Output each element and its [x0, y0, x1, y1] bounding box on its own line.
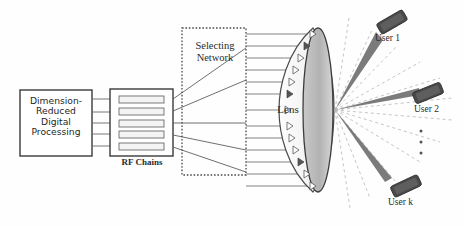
user-2-label: User 2: [414, 104, 439, 115]
user-1-label: User 1: [375, 33, 400, 44]
beam-user-1: [335, 32, 383, 110]
dsp-block-label: Dimension- Reduced Digital Processing: [22, 96, 90, 137]
lens-label: Lens: [268, 103, 308, 115]
ray: [335, 110, 370, 198]
ray: [335, 110, 440, 142]
beam-user-k: [335, 110, 392, 182]
rf-chain-bar: [119, 108, 164, 115]
figure-canvas: Dimension- Reduced Digital Processing RF…: [0, 0, 464, 226]
user-beams: [335, 32, 420, 182]
user-k-label: User k: [388, 197, 413, 208]
rf-chain-bar: [119, 96, 164, 103]
selecting-network-label: Selecting Network: [186, 40, 244, 64]
rf-chain-bar: [119, 143, 164, 150]
rf-chains-caption: RF Chains: [108, 157, 176, 167]
ray: [335, 30, 372, 110]
ray: [335, 18, 349, 110]
selecting-network-fan: [173, 48, 246, 172]
rf-chain-bar: [119, 120, 164, 127]
ellipsis-dot: [420, 141, 423, 144]
rf-chain-bar: [119, 131, 164, 138]
ellipsis-dot: [420, 130, 423, 133]
dsp-rf-connectors: [92, 99, 110, 146]
ellipsis-dots: [420, 130, 423, 155]
ellipsis-dot: [420, 152, 423, 155]
ray: [335, 110, 420, 162]
